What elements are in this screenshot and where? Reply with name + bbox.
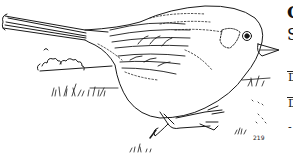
edge-text-fragment: D xyxy=(288,98,293,109)
legs-feet xyxy=(150,106,224,138)
back-markings xyxy=(98,14,222,81)
shrub-outline xyxy=(37,49,84,71)
sparrow-illustration: 219 xyxy=(0,0,293,164)
wing-feathers xyxy=(110,23,190,74)
eye xyxy=(245,34,249,38)
edge-text-fragment: S xyxy=(287,27,293,43)
edge-text-fragment: - xyxy=(288,122,292,133)
cheek-patch xyxy=(220,28,240,48)
tail xyxy=(2,14,108,40)
edge-text-fragment: C xyxy=(287,4,293,21)
scribble-label: 219 xyxy=(253,134,265,141)
grass-tuft xyxy=(52,84,118,96)
ground-line xyxy=(40,66,112,71)
edge-text-fragment: D xyxy=(288,72,293,83)
ground-marks xyxy=(130,76,270,152)
